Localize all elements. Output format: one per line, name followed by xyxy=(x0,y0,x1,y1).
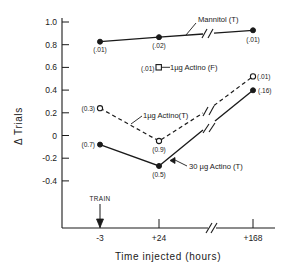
data-label-mannitol-2: (.01) xyxy=(246,36,260,44)
data-label-actino-30-t-2: (.16) xyxy=(258,87,272,95)
series-actino-1-t-line-right xyxy=(214,76,253,105)
x-axis-title: Time injected (hours) xyxy=(115,251,221,262)
chart-figure: 1.0 0.8 0.6 0.4 0.2 0 -0.2 -0.4 Δ Trials… xyxy=(0,0,283,275)
data-point-mannitol-1 xyxy=(157,35,162,40)
data-point-actino-1-t-2 xyxy=(250,74,255,79)
series-actino-30-t-label: 30 µg Actino (T) xyxy=(189,162,243,171)
series-actino-1-t-label: 1µg Actino(T) xyxy=(143,111,189,120)
series-actino-30-t-break-icon xyxy=(203,123,215,133)
data-label-actino-1-t-0: (0.3) xyxy=(81,105,95,113)
series-actino-30-t: (0.7) (0.5) (.16) 30 µg Actino (T) xyxy=(81,87,271,179)
y-axis-title: Δ Trials xyxy=(13,107,24,145)
train-label: TRAIN xyxy=(89,195,110,202)
series-actino-30-t-line-right xyxy=(215,90,253,121)
series-actino-1-t-break-icon xyxy=(203,106,214,116)
x-tick-label-+24: +24 xyxy=(152,233,167,243)
data-label-mannitol-1: (.02) xyxy=(152,42,166,50)
data-point-actino-30-t-2 xyxy=(251,88,256,93)
y-tick-label-1.0: 1.0 xyxy=(45,17,57,27)
series-actino-30-t-leader xyxy=(175,160,187,166)
series-actino-30-t-arrow-icon xyxy=(170,158,175,164)
series-mannitol-label: Mannitol (T) xyxy=(198,15,239,24)
data-label-actino-1-t-2: (.01) xyxy=(257,73,271,81)
series-actino-1-f: (.01) 1µg Actino (F) xyxy=(141,63,218,73)
y-tick-label--0.4: -0.4 xyxy=(42,176,57,186)
y-tick-label-0.8: 0.8 xyxy=(45,40,57,50)
y-tick-label-0.2: 0.2 xyxy=(45,108,57,118)
data-point-actino-30-t-1 xyxy=(157,164,162,169)
data-point-actino-30-t-0 xyxy=(98,142,103,147)
data-label-actino-30-t-0: (0.7) xyxy=(81,141,95,149)
data-label-actino-1-f-0: (.01) xyxy=(141,65,155,73)
data-point-actino-1-f-0 xyxy=(156,65,161,70)
data-point-actino-1-t-0 xyxy=(97,106,102,111)
y-tick-label-0.4: 0.4 xyxy=(45,85,57,95)
series-actino-1-t-leader xyxy=(131,116,142,124)
series-mannitol-break-icon xyxy=(202,29,213,38)
series-actino-1-t: (0.3) (0.9) (.01) 1µg Actino(T) xyxy=(81,73,270,154)
data-label-actino-30-t-1: (0.5) xyxy=(152,171,166,179)
x-axis-ticks xyxy=(100,219,253,228)
series-mannitol-line-right xyxy=(214,30,253,33)
series-actino-1-f-label: 1µg Actino (F) xyxy=(170,63,218,72)
data-point-mannitol-0 xyxy=(98,39,103,44)
x-tick-label--3: -3 xyxy=(96,233,104,243)
y-tick-label-0: 0 xyxy=(52,131,57,141)
data-point-mannitol-2 xyxy=(251,28,256,33)
y-axis-ticks xyxy=(62,22,69,181)
x-tick-label-+168: +168 xyxy=(243,233,262,243)
chart-canvas: 1.0 0.8 0.6 0.4 0.2 0 -0.2 -0.4 Δ Trials… xyxy=(0,0,283,275)
data-point-actino-1-t-1 xyxy=(156,138,161,143)
data-label-mannitol-0: (.01) xyxy=(93,46,107,54)
train-arrow-icon xyxy=(97,219,104,228)
data-label-actino-1-t-1: (0.9) xyxy=(152,146,166,154)
series-mannitol: (.01) (.02) (.01) Mannitol (T) xyxy=(93,15,260,54)
series-mannitol-leader xyxy=(186,23,196,35)
y-tick-label--0.2: -0.2 xyxy=(42,153,57,163)
y-tick-label-0.6: 0.6 xyxy=(45,62,57,72)
train-annotation: TRAIN xyxy=(89,195,110,228)
